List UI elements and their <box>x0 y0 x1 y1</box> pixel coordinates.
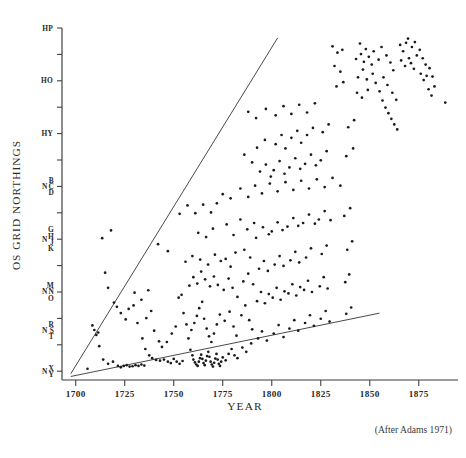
data-point <box>239 218 242 221</box>
data-point <box>315 164 318 167</box>
data-point <box>144 348 147 351</box>
data-point <box>292 189 295 192</box>
data-point <box>248 319 251 322</box>
data-point <box>189 348 192 351</box>
upper-boundary-line <box>71 38 278 374</box>
data-point <box>295 294 298 297</box>
data-point <box>385 54 388 57</box>
data-point <box>415 54 418 57</box>
data-point <box>217 284 220 287</box>
data-point <box>281 229 284 232</box>
data-point <box>188 284 191 287</box>
x-tick-label: 1800 <box>262 389 282 399</box>
data-point <box>344 281 347 284</box>
data-point <box>224 258 227 261</box>
data-point <box>353 119 356 122</box>
data-point <box>224 359 227 362</box>
data-point <box>253 222 256 225</box>
data-point <box>134 364 137 367</box>
data-point <box>247 272 250 275</box>
data-point <box>419 72 422 75</box>
data-point <box>113 301 116 304</box>
data-point <box>355 58 358 61</box>
data-point <box>299 167 302 170</box>
data-point <box>225 223 228 226</box>
data-point <box>265 163 268 166</box>
data-point <box>282 265 285 268</box>
data-point <box>370 63 373 66</box>
data-point <box>220 360 223 363</box>
data-point <box>209 360 212 363</box>
data-point <box>287 292 290 295</box>
data-point <box>101 237 104 240</box>
data-point <box>210 211 213 214</box>
data-point <box>232 234 235 237</box>
data-point <box>296 129 299 132</box>
data-point <box>349 207 352 210</box>
data-point <box>425 75 428 78</box>
data-point <box>314 102 317 105</box>
data-point <box>167 250 170 253</box>
data-point <box>290 113 293 116</box>
x-tick-label: 1725 <box>115 389 135 399</box>
y-tick-label: HO <box>41 76 53 85</box>
data-point <box>276 221 279 224</box>
data-point <box>95 334 98 337</box>
data-point <box>86 367 89 370</box>
data-point <box>405 41 408 44</box>
data-point <box>274 114 277 117</box>
scatter-plot-svg: HPHOHYNBCDNGHJKNMNONRSTNXY17001725175017… <box>0 0 466 458</box>
data-point <box>319 159 322 162</box>
data-point <box>261 330 264 333</box>
data-point <box>191 255 194 258</box>
data-point <box>304 322 307 325</box>
x-tick-label: 1750 <box>164 389 184 399</box>
data-point <box>359 42 362 45</box>
data-point <box>153 329 156 332</box>
data-point <box>292 217 295 220</box>
data-point <box>255 117 258 120</box>
data-point <box>246 228 249 231</box>
data-point <box>335 85 338 88</box>
data-point <box>312 127 315 130</box>
data-point <box>93 329 96 332</box>
data-point <box>200 353 203 356</box>
data-point <box>284 147 287 150</box>
data-point <box>158 340 161 343</box>
data-point <box>298 103 301 106</box>
data-point <box>365 78 368 81</box>
data-point <box>241 346 244 349</box>
data-point <box>236 357 239 360</box>
data-point <box>310 153 313 156</box>
y-tick-label: HY <box>42 129 54 138</box>
data-point <box>308 213 311 216</box>
data-point <box>122 365 125 368</box>
data-point <box>413 67 416 70</box>
data-point <box>227 277 230 280</box>
data-point <box>384 106 387 109</box>
data-point <box>366 89 369 92</box>
data-point <box>318 285 321 288</box>
data-point <box>233 354 236 357</box>
data-point <box>265 108 268 111</box>
y-tick-label: HP <box>42 24 53 33</box>
data-point <box>213 332 216 335</box>
data-point <box>250 342 253 345</box>
data-point <box>387 112 390 115</box>
data-point <box>221 193 224 196</box>
data-point <box>342 81 345 84</box>
data-point <box>177 296 180 299</box>
data-point <box>212 227 215 230</box>
data-point <box>298 261 301 264</box>
data-point <box>393 123 396 126</box>
data-point <box>205 359 208 362</box>
data-point <box>216 358 219 361</box>
x-tick-label: 1850 <box>360 389 380 399</box>
data-point <box>320 253 323 256</box>
data-point <box>213 275 216 278</box>
data-point <box>214 253 217 256</box>
data-point <box>323 186 326 189</box>
data-point <box>197 360 200 363</box>
data-point <box>294 157 297 160</box>
data-point <box>311 291 314 294</box>
